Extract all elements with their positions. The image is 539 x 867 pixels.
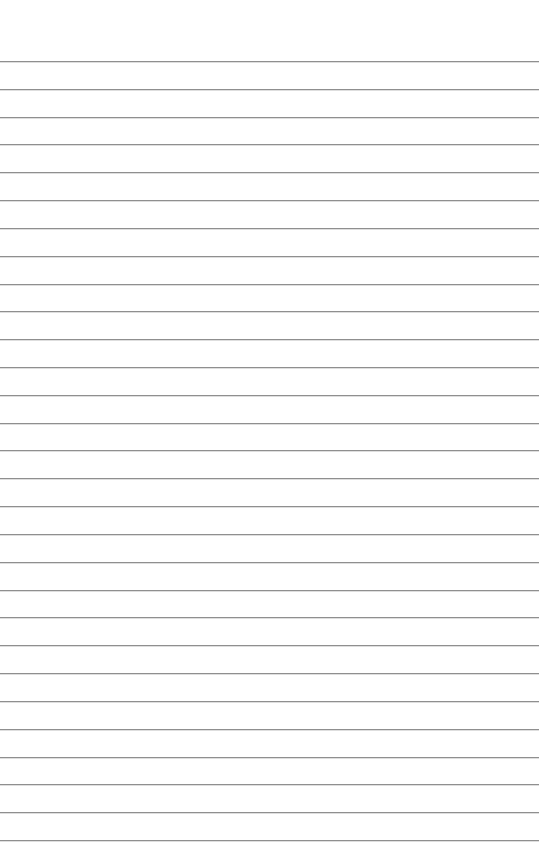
ruled-line [0, 729, 539, 730]
ruled-line [0, 590, 539, 591]
ruled-line [0, 450, 539, 451]
ruled-line [0, 256, 539, 257]
ruled-line [0, 117, 539, 118]
ruled-line [0, 89, 539, 90]
ruled-line [0, 645, 539, 646]
ruled-line [0, 61, 539, 62]
ruled-line [0, 367, 539, 368]
ruled-line [0, 534, 539, 535]
ruled-line [0, 478, 539, 479]
ruled-line [0, 840, 539, 841]
ruled-line [0, 701, 539, 702]
ruled-line [0, 562, 539, 563]
ruled-line [0, 284, 539, 285]
ruled-line [0, 172, 539, 173]
lined-paper-page [0, 0, 539, 867]
ruled-line [0, 757, 539, 758]
ruled-line [0, 395, 539, 396]
ruled-line [0, 228, 539, 229]
ruled-line [0, 423, 539, 424]
ruled-line [0, 506, 539, 507]
ruled-line [0, 144, 539, 145]
ruled-line [0, 812, 539, 813]
ruled-line [0, 339, 539, 340]
ruled-line [0, 673, 539, 674]
ruled-line [0, 617, 539, 618]
ruled-line [0, 784, 539, 785]
ruled-line [0, 200, 539, 201]
ruled-line [0, 311, 539, 312]
